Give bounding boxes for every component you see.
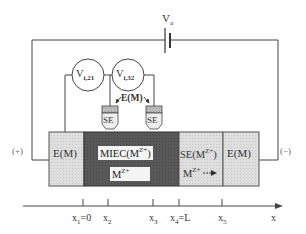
tick-label-x1: x1=0 [72,213,91,226]
miec-flux-label: MZ+ [110,167,150,181]
voltmeter-21-label: Vi,21 [76,69,94,82]
electrode-right-label: E(M) [227,148,251,159]
battery-label: Va [162,13,173,27]
electrode-left-label: E(M) [53,148,77,159]
tick-label-x3: x3 [149,213,158,226]
axis-label-x: x [271,213,276,223]
x-axis [23,199,283,209]
probe-left-label: SE [103,116,114,125]
terminal-negative: (−) [280,147,291,156]
probe-right-label: SE [147,116,158,125]
region-electrode-left [49,132,84,186]
tick-label-x4: x4=L [170,213,190,226]
region-electrode-right [223,132,259,186]
miec-label: MIEC(MZ+) [98,146,153,160]
battery-icon [165,28,170,53]
solid-electrolyte-label: SE(MZ+) [180,148,217,160]
tick-label-x5: x5 [218,213,227,226]
tick-label-x2: x2 [103,213,112,226]
solid-electrolyte-flux-label: MZ+ [183,167,201,179]
terminal-positive: (+) [12,147,23,156]
voltmeter-32-label: Vi,32 [116,69,134,82]
probe-electrode-label: E(M) [121,94,143,104]
